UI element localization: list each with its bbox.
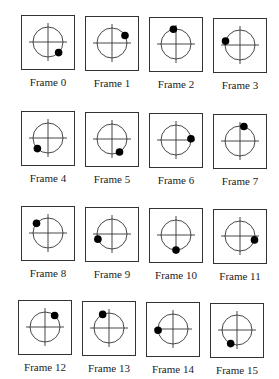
position-dot <box>34 145 42 153</box>
circle-diagram <box>19 301 71 354</box>
frame-box <box>21 111 75 166</box>
circle-diagram <box>86 17 138 70</box>
frame-label: Frame 4 <box>11 172 85 184</box>
frame-label: Frame 3 <box>203 79 277 91</box>
frame-box <box>149 113 203 168</box>
position-dot <box>187 135 195 143</box>
position-dot <box>33 220 41 228</box>
circle-diagram <box>86 208 138 261</box>
frame-box <box>21 15 75 70</box>
frame-label: Frame 0 <box>11 76 85 88</box>
frame-box <box>85 112 139 167</box>
position-dot <box>170 25 178 33</box>
frame-box <box>82 301 136 356</box>
position-dot <box>172 246 180 254</box>
frame-box <box>85 207 139 262</box>
frame-box <box>21 206 75 261</box>
frame-box <box>213 18 267 73</box>
frame-label: Frame 11 <box>203 270 277 282</box>
frame-label: Frame 8 <box>11 267 85 279</box>
frame-box <box>213 114 267 169</box>
frame-box <box>213 209 267 264</box>
circle-diagram <box>150 114 202 167</box>
circle-diagram <box>214 115 266 168</box>
circle-diagram <box>86 113 138 166</box>
circle-diagram <box>22 16 74 69</box>
position-dot <box>227 340 235 348</box>
circle-diagram <box>150 18 202 71</box>
frame-label: Frame 15 <box>200 364 274 376</box>
circle-diagram <box>22 112 74 165</box>
position-dot <box>99 311 107 319</box>
frame-label: Frame 1 <box>75 77 149 89</box>
frame-label: Frame 10 <box>139 269 213 281</box>
circle-diagram <box>214 210 266 263</box>
frame-label: Frame 14 <box>136 363 210 375</box>
position-dot <box>51 312 59 320</box>
frame-label: Frame 9 <box>75 268 149 280</box>
frame-box <box>18 300 72 355</box>
circle-diagram <box>150 209 202 262</box>
frame-box <box>210 303 264 358</box>
frame-box <box>85 16 139 71</box>
position-dot <box>121 32 129 40</box>
frame-box <box>146 302 200 357</box>
frame-label: Frame 13 <box>72 362 146 374</box>
position-dot <box>222 37 230 45</box>
frame-label: Frame 7 <box>203 175 277 187</box>
position-dot <box>240 123 248 131</box>
frame-label: Frame 6 <box>139 174 213 186</box>
circle-diagram <box>22 207 74 260</box>
frame-box <box>149 17 203 72</box>
circle-diagram <box>147 303 199 356</box>
position-dot <box>55 49 63 57</box>
position-dot <box>94 235 102 243</box>
frame-box <box>149 208 203 263</box>
position-dot <box>154 327 162 335</box>
circle-diagram <box>211 304 263 357</box>
position-dot <box>116 148 124 156</box>
frame-label: Frame 12 <box>8 361 82 373</box>
position-dot <box>251 236 259 244</box>
circle-diagram <box>83 302 135 355</box>
circle-diagram <box>214 19 266 72</box>
frame-label: Frame 2 <box>139 78 213 90</box>
frame-label: Frame 5 <box>75 173 149 185</box>
